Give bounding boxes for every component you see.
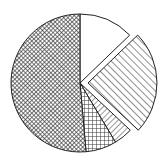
pie-slices <box>11 14 157 152</box>
pie-chart-canvas <box>0 0 165 162</box>
pie-slice-5 <box>11 14 86 152</box>
pie-chart <box>0 0 165 162</box>
